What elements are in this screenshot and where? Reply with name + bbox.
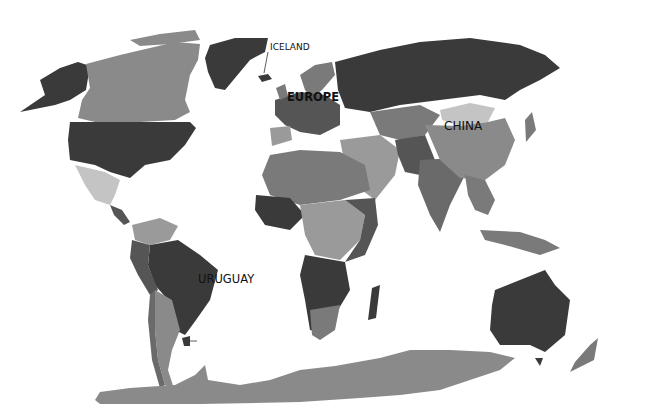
region-iberia bbox=[270, 126, 292, 146]
label-china: CHINA bbox=[444, 119, 482, 133]
region-greenland bbox=[205, 38, 268, 90]
region-iceland bbox=[258, 74, 272, 82]
region-australia bbox=[490, 270, 570, 352]
label-uruguay: URUGUAY bbox=[198, 272, 254, 286]
world-map bbox=[0, 0, 655, 407]
region-new-zealand bbox=[570, 338, 598, 372]
region-canada bbox=[78, 42, 200, 122]
region-central-america bbox=[110, 205, 130, 225]
region-southeast-asia bbox=[465, 175, 495, 215]
region-tasmania bbox=[535, 358, 543, 366]
region-colombia-venezuela bbox=[132, 218, 178, 245]
label-iceland: ICELAND bbox=[270, 42, 310, 52]
region-indonesia bbox=[480, 230, 560, 255]
iceland-leader-line bbox=[264, 52, 268, 73]
region-alaska bbox=[20, 62, 90, 112]
region-south-africa bbox=[310, 305, 340, 340]
label-europe: EUROPE bbox=[287, 90, 339, 104]
region-madagascar bbox=[368, 285, 380, 320]
region-japan bbox=[525, 112, 536, 142]
region-russia bbox=[335, 38, 560, 112]
region-uruguay bbox=[182, 336, 190, 346]
